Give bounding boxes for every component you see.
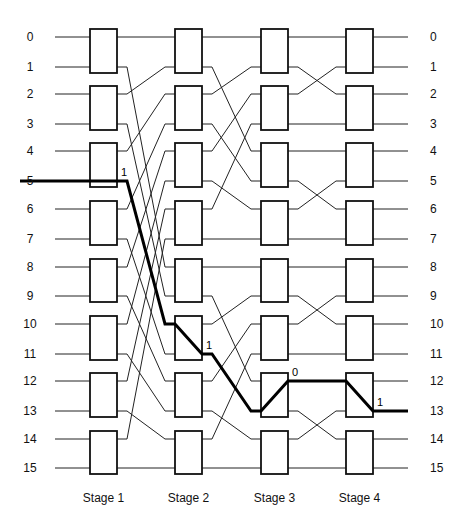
route-bit-label: 0 xyxy=(292,366,298,378)
stage-label: Stage 1 xyxy=(83,491,125,505)
output-label: 12 xyxy=(430,374,444,388)
output-label: 8 xyxy=(430,260,437,274)
output-label: 10 xyxy=(430,317,444,331)
switch-box xyxy=(90,29,117,73)
route-bit-label: 1 xyxy=(121,166,127,178)
input-label: 4 xyxy=(27,144,34,158)
interstage-wire xyxy=(202,94,261,151)
interstage-wire xyxy=(117,67,175,94)
switch-box xyxy=(175,29,202,73)
switch-box xyxy=(90,201,117,245)
output-label: 14 xyxy=(430,432,444,446)
output-label: 5 xyxy=(430,174,437,188)
switch-box xyxy=(261,201,288,245)
input-label: 2 xyxy=(27,87,34,101)
route-bit-label: 1 xyxy=(206,339,212,351)
multistage-network-diagram: 1101 01234567891011121314150123456789101… xyxy=(0,0,464,532)
switch-box xyxy=(261,431,288,474)
switch-box xyxy=(175,373,202,417)
switch-box xyxy=(261,86,288,130)
interstage-wire xyxy=(117,209,175,381)
output-label: 1 xyxy=(430,60,437,74)
input-label: 13 xyxy=(23,404,37,418)
output-label: 13 xyxy=(430,404,444,418)
stage-label: Stage 4 xyxy=(339,491,381,505)
switch-box xyxy=(90,431,117,474)
input-label: 14 xyxy=(23,432,37,446)
switch-box xyxy=(346,201,373,245)
switch-box xyxy=(261,29,288,73)
interstage-wire xyxy=(202,411,261,439)
switch-box xyxy=(175,431,202,474)
interstage-wire xyxy=(117,94,175,151)
input-label: 9 xyxy=(27,289,34,303)
output-label: 15 xyxy=(430,461,444,475)
interstage-wire xyxy=(202,67,261,151)
switch-box xyxy=(90,86,117,130)
switch-box xyxy=(346,259,373,302)
switch-box xyxy=(261,316,288,360)
route-bit-label: 1 xyxy=(377,396,383,408)
interstage-wire xyxy=(202,181,261,209)
switch-box xyxy=(175,86,202,130)
switch-box xyxy=(346,316,373,360)
interstage-wire xyxy=(117,411,175,439)
switch-box xyxy=(346,29,373,73)
interstage-wire xyxy=(288,296,346,324)
stage-label: Stage 2 xyxy=(168,491,210,505)
input-label: 5 xyxy=(27,174,34,188)
switch-box xyxy=(90,316,117,360)
interstage-wire xyxy=(288,67,346,94)
interstage-wire xyxy=(288,181,346,209)
input-label: 1 xyxy=(27,60,34,74)
input-label: 15 xyxy=(23,461,37,475)
switch-box xyxy=(346,431,373,474)
input-label: 3 xyxy=(27,117,34,131)
output-label: 2 xyxy=(430,87,437,101)
switch-box xyxy=(90,373,117,417)
switch-box xyxy=(175,201,202,245)
input-label: 12 xyxy=(23,374,37,388)
output-label: 11 xyxy=(430,347,443,361)
interstage-wire xyxy=(202,67,261,94)
output-label: 7 xyxy=(430,232,437,246)
output-label: 9 xyxy=(430,289,437,303)
input-label: 8 xyxy=(27,260,34,274)
interstage-wire xyxy=(288,411,346,439)
interstage-wire xyxy=(202,124,261,181)
interstage-wire xyxy=(117,354,175,411)
output-label: 6 xyxy=(430,202,437,216)
interstage-wire xyxy=(202,296,261,324)
stage-label: Stage 3 xyxy=(254,491,296,505)
switch-box xyxy=(175,259,202,302)
interstage-wire xyxy=(117,239,175,439)
output-label: 0 xyxy=(430,30,437,44)
input-label: 10 xyxy=(23,317,37,331)
input-label: 0 xyxy=(27,30,34,44)
switch-box xyxy=(175,143,202,187)
input-label: 11 xyxy=(24,347,37,361)
input-label: 7 xyxy=(27,232,34,246)
switch-box xyxy=(346,143,373,187)
switch-box xyxy=(90,259,117,302)
interstage-wire xyxy=(202,124,261,209)
output-label: 3 xyxy=(430,117,437,131)
switch-box xyxy=(261,143,288,187)
output-label: 4 xyxy=(430,144,437,158)
switch-box xyxy=(261,259,288,302)
input-label: 6 xyxy=(27,202,34,216)
interstage-wire xyxy=(202,354,261,439)
switch-box xyxy=(346,86,373,130)
